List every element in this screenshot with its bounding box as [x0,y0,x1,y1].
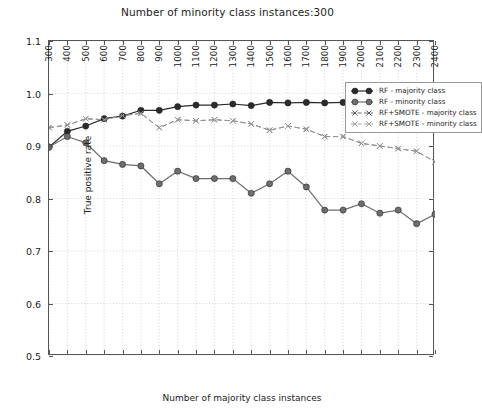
y-tick-label: 1.0 [7,88,41,99]
legend-label: RF - majority class [379,86,445,96]
x-axis-label: Number of majority class instances [49,393,435,403]
x-tick-mark [196,41,197,45]
x-tick-mark [251,350,252,354]
y-axis-label: True positive rate [83,105,93,245]
legend-item[interactable]: RF+SMOTE - majority class [349,108,477,118]
x-tick-label: 1900 [338,45,348,67]
y-tick-label: 0.6 [7,298,41,309]
x-tick-mark [398,41,399,45]
x-tick-mark [214,41,215,45]
x-tick-mark [251,41,252,45]
circle-marker-icon [349,97,375,107]
x-tick-mark [141,350,142,354]
legend-item[interactable]: RF+SMOTE - minority class [349,119,477,129]
x-tick-mark [178,350,179,354]
x-tick-mark [380,41,381,45]
x-tick-mark [361,41,362,45]
x-tick-label: 1600 [283,45,293,67]
x-tick-mark [86,350,87,354]
y-tick-mark [429,356,433,357]
x-tick-mark [380,350,381,354]
x-tick-mark [288,41,289,45]
x-tick-label: 1100 [191,45,201,67]
y-tick-mark [429,251,433,252]
x-tick-label: 1200 [209,45,219,67]
x-tick-label: 700 [118,45,128,62]
y-tick-mark [49,251,53,252]
x-tick-mark [123,41,124,45]
plot-area: True positive rate Number of majority cl… [48,40,434,355]
x-tick-mark [343,41,344,45]
y-tick-mark [429,199,433,200]
x-tick-mark [104,350,105,354]
legend-label: RF+SMOTE - minority class [379,119,477,129]
x-tick-mark [104,41,105,45]
x-tick-label: 2400 [430,45,440,67]
y-tick-mark [429,146,433,147]
x-tick-mark [417,41,418,45]
x-tick-label: 600 [99,45,109,62]
y-tick-label: 1.1 [7,36,41,47]
x-tick-mark [141,41,142,45]
x-tick-mark [214,350,215,354]
x-tick-mark [435,41,436,45]
circle-marker-icon [349,86,375,96]
legend-item[interactable]: RF - minority class [349,97,477,107]
x-tick-label: 2300 [412,45,422,67]
y-tick-mark [49,356,53,357]
x-tick-label: 1800 [320,45,330,67]
legend-label: RF+SMOTE - majority class [379,108,477,118]
y-tick-label: 0.9 [7,141,41,152]
x-tick-label: 1400 [246,45,256,67]
x-tick-label: 1500 [265,45,275,67]
y-tick-mark [49,146,53,147]
x-tick-label: 2200 [393,45,403,67]
chart-legend: RF - majority classRF - minority classRF… [345,82,482,133]
legend-item[interactable]: RF - majority class [349,86,477,96]
x-tick-mark [398,350,399,354]
x-tick-label: 900 [154,45,164,62]
y-tick-mark [429,304,433,305]
x-tick-mark [325,350,326,354]
y-tick-mark [49,199,53,200]
x-tick-label: 300 [44,45,54,62]
x-tick-mark [417,350,418,354]
x-tick-mark [233,41,234,45]
x-tick-label: 2100 [375,45,385,67]
x-tick-mark [233,350,234,354]
x-tick-mark [306,350,307,354]
x-tick-label: 1300 [228,45,238,67]
x-tick-mark [288,350,289,354]
x-tick-label: 800 [136,45,146,62]
x-tick-mark [67,350,68,354]
x-tick-mark [49,41,50,45]
x-tick-mark [270,350,271,354]
x-tick-label: 1700 [301,45,311,67]
x-tick-mark [306,41,307,45]
x-tick-label: 400 [62,45,72,62]
cross-marker-icon [349,119,375,129]
x-tick-mark [159,350,160,354]
x-tick-mark [325,41,326,45]
legend-label: RF - minority class [379,97,445,107]
x-tick-label: 500 [81,45,91,62]
x-tick-label: 1000 [173,45,183,67]
y-tick-mark [49,304,53,305]
x-tick-mark [86,41,87,45]
y-tick-label: 0.7 [7,246,41,257]
x-tick-mark [270,41,271,45]
x-tick-label: 2000 [356,45,366,67]
x-tick-mark [49,350,50,354]
x-tick-mark [361,350,362,354]
x-tick-mark [67,41,68,45]
y-tick-label: 0.5 [7,351,41,362]
x-tick-mark [123,350,124,354]
y-tick-mark [429,41,433,42]
chart-title: Number of minority class instances:300 [0,6,455,18]
y-tick-label: 0.8 [7,193,41,204]
x-tick-mark [196,350,197,354]
x-tick-mark [159,41,160,45]
x-tick-mark [435,350,436,354]
x-tick-mark [343,350,344,354]
